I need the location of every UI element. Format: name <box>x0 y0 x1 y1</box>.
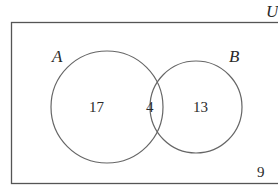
venn-diagram: U A B 17 4 13 9 <box>0 0 278 187</box>
intersection-count: 4 <box>146 99 154 115</box>
set-a-only-count: 17 <box>89 99 105 115</box>
set-b-only-count: 13 <box>193 99 208 115</box>
universe-label: U <box>266 2 278 21</box>
set-a-label: A <box>51 47 63 66</box>
outside-count: 9 <box>257 164 265 180</box>
set-b-label: B <box>229 47 240 66</box>
